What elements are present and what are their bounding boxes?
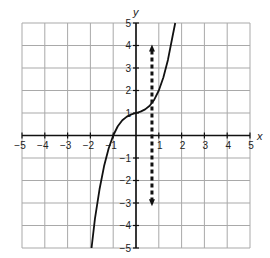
x-tick-label: 3	[203, 140, 209, 151]
y-tick-label: −2	[120, 175, 132, 186]
y-tick-label: −3	[120, 198, 132, 209]
y-tick-label: −1	[120, 153, 132, 164]
y-tick-label: 3	[125, 63, 131, 74]
y-tick-label: 2	[125, 85, 131, 96]
chart-canvas: −5−4−3−2−112345−5−4−3−2−112345 x y	[0, 0, 270, 258]
cubic-graph-chart: −5−4−3−2−112345−5−4−3−2−112345 x y	[0, 0, 270, 258]
axes	[22, 23, 250, 248]
x-tick-label: 1	[157, 140, 163, 151]
y-axis-label: y	[132, 6, 140, 18]
y-tick-label: 4	[125, 40, 131, 51]
y-tick-label: −5	[120, 243, 132, 254]
x-tick-label: 5	[248, 140, 254, 151]
x-axis-label: x	[256, 130, 263, 142]
x-tick-label: −3	[60, 140, 72, 151]
x-tick-label: −2	[83, 140, 95, 151]
y-tick-label: −4	[120, 220, 132, 231]
x-tick-label: −5	[14, 140, 26, 151]
y-tick-label: 5	[125, 18, 131, 29]
x-tick-label: 2	[180, 140, 186, 151]
x-tick-label: 4	[225, 140, 231, 151]
x-tick-label: −4	[37, 140, 49, 151]
